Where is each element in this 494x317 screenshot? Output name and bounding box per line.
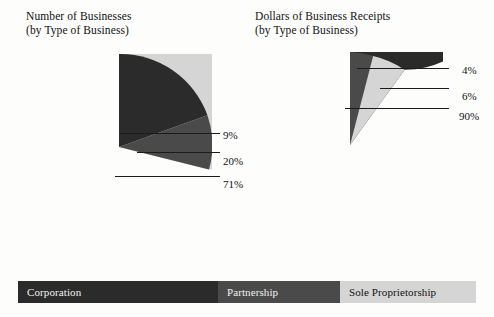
left-percent-label-sole-proprietorship: 71% xyxy=(223,178,243,190)
legend-item-partnership: Partnership xyxy=(218,281,340,303)
chart-page: Number of Businesses (by Type of Busines… xyxy=(0,0,494,317)
pie-chart-dollars-of-business-receipts xyxy=(257,52,443,238)
legend-item-corporation: Corporation xyxy=(18,281,218,303)
left-chart-title: Number of Businesses (by Type of Busines… xyxy=(26,10,132,37)
left-chart-title-line1: Number of Businesses xyxy=(26,10,132,22)
legend-item-sole-proprietorship: Sole Proprietorship xyxy=(340,281,476,303)
right-leader-line-corporation xyxy=(345,108,449,109)
right-leader-line-sole-proprietorship xyxy=(380,88,449,89)
left-pie-svg xyxy=(26,54,212,240)
left-percent-label-partnership: 9% xyxy=(223,129,238,141)
legend-label-corporation: Corporation xyxy=(18,286,81,298)
legend-label-sole-proprietorship: Sole Proprietorship xyxy=(340,286,436,298)
left-chart-title-line2: (by Type of Business) xyxy=(26,24,129,36)
right-leader-line-partnership xyxy=(357,68,449,69)
right-percent-label-corporation: 90% xyxy=(459,110,479,122)
left-leader-line-sole-proprietorship xyxy=(115,176,220,177)
right-pie-svg xyxy=(257,52,443,238)
right-percent-label-partnership: 4% xyxy=(462,64,477,76)
right-percent-label-sole-proprietorship: 6% xyxy=(462,90,477,102)
left-percent-label-corporation: 20% xyxy=(223,155,243,167)
left-leader-line-partnership xyxy=(120,133,220,134)
right-chart-title-line1: Dollars of Business Receipts xyxy=(255,10,390,22)
legend: Corporation Partnership Sole Proprietors… xyxy=(18,281,476,303)
right-chart-title-line2: (by Type of Business) xyxy=(255,24,358,36)
right-chart-title: Dollars of Business Receipts (by Type of… xyxy=(255,10,390,37)
left-leader-line-corporation xyxy=(137,152,220,153)
pie-chart-number-of-businesses xyxy=(26,54,212,240)
legend-label-partnership: Partnership xyxy=(218,286,278,298)
